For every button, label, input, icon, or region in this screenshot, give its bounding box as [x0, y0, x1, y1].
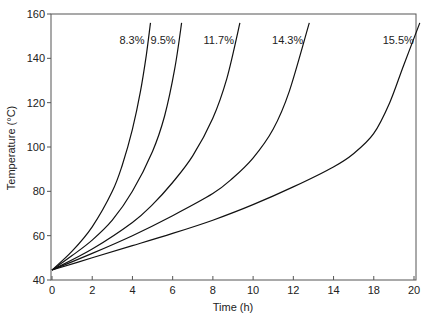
x-axis-label: Time (h)	[213, 301, 254, 313]
y-tick-label: 120	[27, 97, 45, 109]
x-tick-label: 2	[89, 284, 95, 296]
x-axis-ticks: 024681012141820	[49, 276, 420, 296]
curve-8-3pct	[52, 23, 151, 270]
curve-label: 8.3%	[119, 34, 144, 46]
y-axis-label: Temperature (°C)	[5, 106, 17, 190]
y-tick-label: 80	[33, 185, 45, 197]
curve-label: 14.3%	[272, 34, 303, 46]
x-tick-label: 8	[210, 284, 216, 296]
y-axis-ticks: 406080100120140160	[27, 8, 51, 286]
y-tick-label: 60	[33, 230, 45, 242]
x-tick-label: 20	[408, 284, 420, 296]
x-tick-label: 4	[129, 284, 135, 296]
x-tick-label: 14	[327, 284, 339, 296]
x-tick-label: 18	[368, 284, 380, 296]
x-tick-label: 6	[170, 284, 176, 296]
y-tick-label: 100	[27, 141, 45, 153]
curve-14-3pct	[52, 23, 309, 270]
y-tick-label: 40	[33, 274, 45, 286]
x-tick-label: 0	[49, 284, 55, 296]
curve-label: 9.5%	[151, 34, 176, 46]
y-tick-label: 160	[27, 8, 45, 20]
curve-15-5pct	[52, 23, 420, 270]
curves	[52, 23, 420, 270]
curve-label: 11.7%	[204, 34, 235, 46]
x-tick-label: 12	[287, 284, 299, 296]
y-tick-label: 140	[27, 52, 45, 64]
curve-labels: 8.3%9.5%11.7%14.3%15.5%	[119, 34, 414, 46]
x-tick-label: 10	[247, 284, 259, 296]
curve-label: 15.5%	[383, 34, 414, 46]
temperature-time-chart: 024681012141820 406080100120140160 8.3%9…	[0, 0, 421, 321]
